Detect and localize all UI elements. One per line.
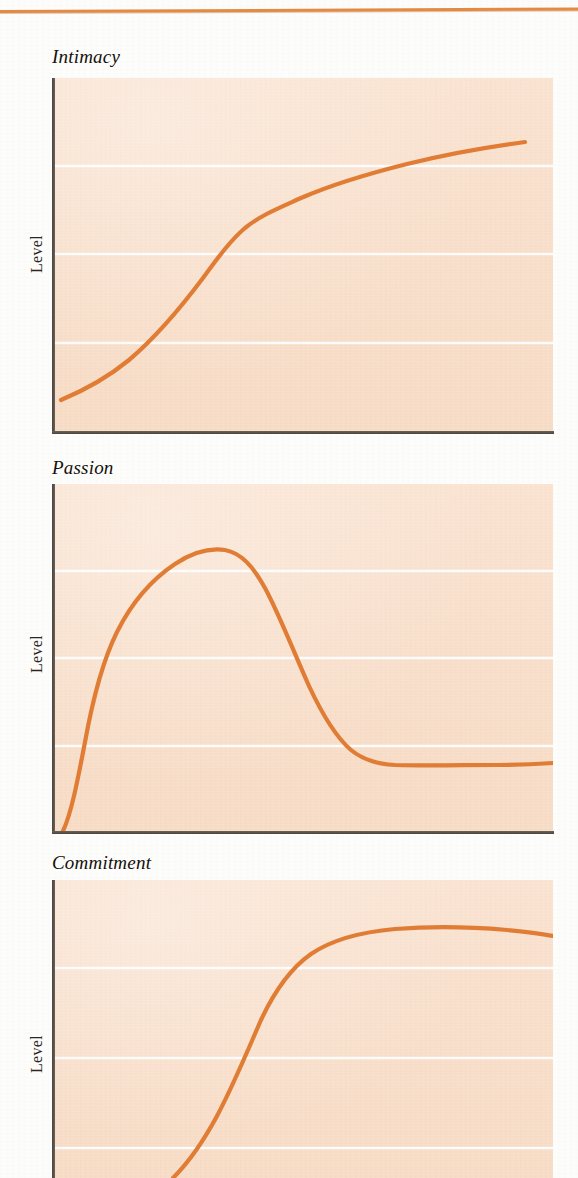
data-curve-commitment bbox=[173, 927, 553, 1178]
chart-title-intimacy: Intimacy bbox=[52, 46, 120, 68]
chart-title-commitment: Commitment bbox=[52, 852, 151, 874]
chart-block-commitment: Commitment Level bbox=[0, 840, 578, 1178]
gridlines-commitment bbox=[55, 968, 553, 1148]
plot-area-passion bbox=[55, 484, 553, 831]
chart-svg-intimacy bbox=[55, 78, 553, 431]
x-axis-line-intimacy bbox=[52, 431, 554, 434]
gridlines-intimacy bbox=[55, 166, 553, 343]
x-axis-line-passion bbox=[52, 831, 554, 834]
chart-svg-passion bbox=[55, 484, 553, 831]
y-axis-label-intimacy: Level bbox=[28, 224, 46, 284]
y-axis-label-commitment: Level bbox=[28, 1024, 46, 1084]
chart-title-passion: Passion bbox=[52, 457, 114, 479]
chart-block-passion: Passion Level bbox=[0, 440, 578, 840]
chart-block-intimacy: Intimacy Level bbox=[0, 0, 578, 440]
y-axis-label-passion: Level bbox=[28, 624, 46, 684]
data-curve-passion bbox=[63, 550, 553, 831]
plot-area-intimacy bbox=[55, 78, 553, 431]
plot-area-commitment bbox=[55, 880, 553, 1178]
chart-svg-commitment bbox=[55, 880, 553, 1178]
gridlines-passion bbox=[55, 571, 553, 746]
data-curve-intimacy bbox=[61, 142, 525, 400]
